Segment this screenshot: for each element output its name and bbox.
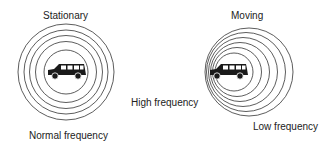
moving-title: Moving xyxy=(231,11,263,21)
moving-rear-caption: Low frequency xyxy=(253,122,318,132)
stationary-title: Stationary xyxy=(43,11,88,21)
moving-front-caption: High frequency xyxy=(131,98,198,108)
stationary-caption: Normal frequency xyxy=(29,131,108,141)
stationary-car-icon xyxy=(48,64,86,79)
